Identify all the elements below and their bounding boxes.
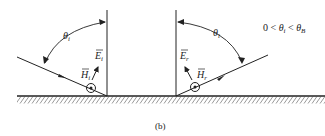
svg-text:Ei: Ei	[94, 50, 103, 63]
svg-text:θi: θi	[213, 27, 220, 40]
incident-angle-arrow-top-icon	[99, 19, 106, 25]
reflected-angle-arrow-top-icon	[177, 19, 184, 25]
conductor-surface	[17, 96, 325, 104]
reflected-wave: θi Er Hr	[176, 10, 268, 96]
reflection-diagram: θi Ei Hi θi Er Hr	[0, 0, 325, 136]
figure-caption: (b)	[155, 121, 166, 131]
angle-condition-label: 0 < θi < θB	[263, 22, 306, 35]
svg-text:Er: Er	[179, 50, 189, 63]
svg-text:Hi: Hi	[80, 69, 90, 82]
incident-ray-arrow-icon	[58, 74, 66, 78]
e-field-reflected-arrow	[185, 67, 192, 80]
svg-text:Hr: Hr	[196, 69, 207, 82]
reflected-angle-arrow-bottom-icon	[238, 57, 245, 64]
incident-wave: θi Ei Hi	[17, 10, 107, 96]
e-field-incident-arrow	[92, 67, 98, 80]
svg-text:θi: θi	[63, 30, 70, 43]
